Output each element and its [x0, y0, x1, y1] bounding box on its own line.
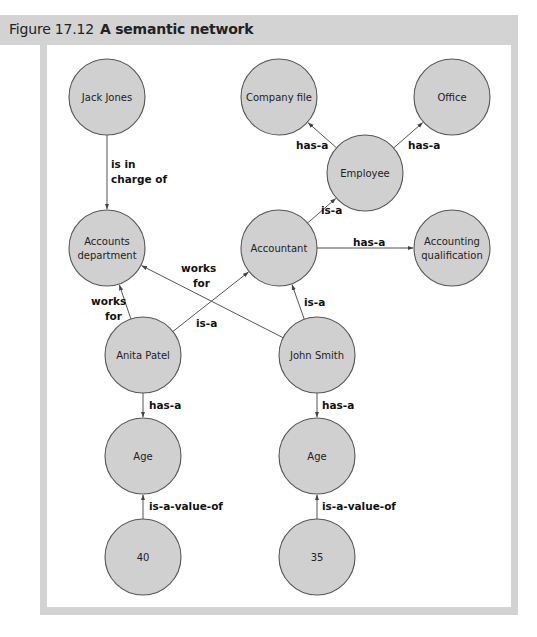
node-employee: Employee: [327, 135, 403, 211]
edge-label: is-a-value-of: [322, 500, 396, 512]
node-label: Accounting: [424, 236, 480, 247]
node-label: Jack Jones: [81, 92, 132, 103]
edge-label: works: [181, 262, 216, 274]
node-accountant: Accountant: [241, 210, 317, 286]
node-age-1: Age: [105, 418, 181, 494]
node-label: Accounts: [84, 236, 130, 247]
node-label: department: [77, 250, 136, 261]
node-label: Employee: [340, 168, 390, 179]
edge-john-smith-to-accountant: [292, 285, 304, 319]
edge-label: has-a: [408, 139, 440, 151]
edge-label: is-a-value-of: [149, 500, 223, 512]
node-circle: [69, 210, 145, 286]
node-label: Accountant: [251, 243, 308, 254]
node-label: 35: [311, 552, 324, 563]
edge-label: works: [91, 295, 126, 307]
node-label: Office: [437, 92, 466, 103]
node-label: Company file: [246, 92, 312, 103]
edge-label: for: [105, 310, 123, 322]
edge-label: is-a: [304, 296, 325, 308]
edge-label: for: [193, 277, 211, 289]
node-office: Office: [414, 59, 490, 135]
edge-label: is-a: [196, 317, 217, 329]
node-label: qualification: [421, 250, 482, 261]
semantic-network-diagram: Jack JonesCompany fileOfficeEmployeeAcco…: [0, 0, 537, 637]
node-anita-patel: Anita Patel: [105, 317, 181, 393]
node-jack-jones: Jack Jones: [69, 59, 145, 135]
edge-label: has-a: [353, 236, 385, 248]
node-value-40: 40: [105, 519, 181, 595]
edge-label: charge of: [111, 173, 167, 185]
node-accounts-department: Accountsdepartment: [69, 210, 145, 286]
edge-label: is in: [111, 158, 136, 170]
edge-label: has-a: [149, 399, 181, 411]
edge-label: is-a: [321, 204, 342, 216]
node-label: 40: [137, 552, 150, 563]
edge-label: has-a: [322, 399, 354, 411]
node-age-2: Age: [279, 418, 355, 494]
node-company-file: Company file: [241, 59, 317, 135]
node-label: Age: [133, 451, 152, 462]
edge-label: has-a: [296, 139, 328, 151]
node-accounting-qualification: Accountingqualification: [414, 210, 490, 286]
node-label: Age: [307, 451, 326, 462]
node-label: Anita Patel: [116, 350, 170, 361]
node-value-35: 35: [279, 519, 355, 595]
node-circle: [414, 210, 490, 286]
node-john-smith: John Smith: [279, 317, 355, 393]
node-label: John Smith: [289, 350, 344, 361]
